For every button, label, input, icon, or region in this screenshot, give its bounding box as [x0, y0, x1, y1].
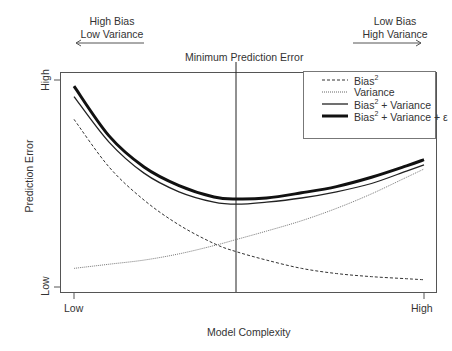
right-arrow-icon [353, 40, 421, 46]
legend-item-bias2: Bias2 [354, 74, 378, 87]
legend-item-bias2-variance: Bias2 + Variance [354, 98, 431, 111]
chart-canvas [0, 0, 452, 351]
legend-item-variance: Variance [354, 86, 395, 98]
left-arrow-icon [76, 40, 144, 46]
legend-item-total-error: Bias2 + Variance + ε [354, 110, 448, 123]
